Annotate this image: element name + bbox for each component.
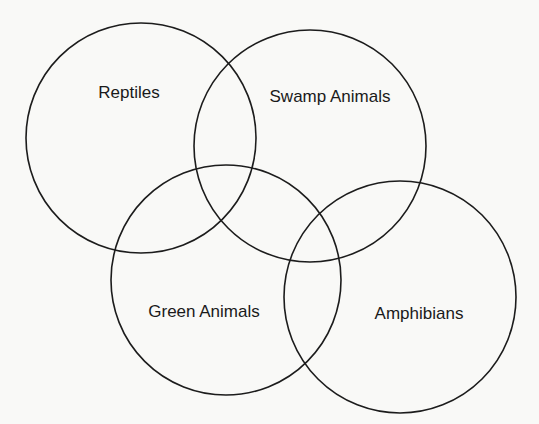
amphibians-label: Amphibians (375, 304, 464, 323)
swamp-animals-label: Swamp Animals (270, 87, 391, 106)
reptiles-label: Reptiles (98, 83, 159, 102)
green-animals-label: Green Animals (148, 302, 260, 321)
venn-diagram: Reptiles Swamp Animals Green Animals Amp… (0, 0, 539, 424)
amphibians-circle (284, 181, 516, 413)
green-animals-circle (111, 165, 341, 395)
reptiles-circle (26, 23, 256, 253)
